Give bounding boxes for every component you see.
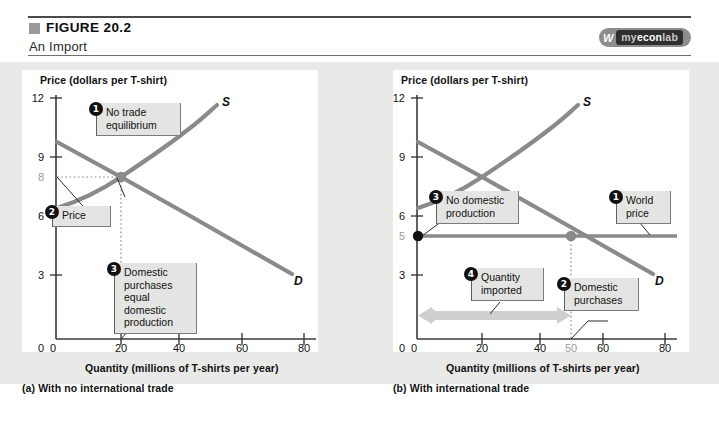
chart-b-bullet-3: 3 [429, 190, 443, 204]
brand-lab: lab [662, 31, 678, 43]
figure-marker-square [29, 23, 40, 34]
chart-a-demand-label: D [294, 274, 303, 288]
chart-b-demand-label: D [655, 274, 664, 288]
chart-a-equilibrium-dot [116, 172, 126, 182]
chart-a-bullet-3: 3 [107, 262, 121, 276]
brand-my: my [621, 31, 637, 43]
myeconlab-badge[interactable]: W myeconlab [599, 28, 691, 47]
chart-b-callout-world-price: World price [616, 191, 671, 224]
chart-a-callout-domestic-purchases: Domestic purchases equal domestic produc… [114, 263, 197, 334]
chart-b-callout-quantity-imported: Quantity imported [471, 268, 544, 301]
figure-title: An Import [29, 39, 87, 54]
chart-b-callout-no-domestic-production: No domestic production [436, 191, 519, 224]
chart-a-bullet-2: 2 [45, 205, 59, 219]
chart-a-callout-price: Price [52, 206, 111, 227]
figure-number: FIGURE 20.2 [46, 20, 131, 35]
chart-a-supply-label: S [222, 95, 230, 109]
chart-b-purchases-dot [566, 231, 576, 241]
chart-b-bullet-2: 2 [557, 277, 571, 291]
chart-b-leader-1 [640, 223, 650, 235]
header-rule-bottom [28, 55, 691, 56]
chart-no-trade: Price (dollars per T-shirt) 12 9 8 6 3 0… [0, 62, 360, 384]
chart-a-callout-no-trade-equilibrium: No trade equilibrium [96, 103, 181, 136]
chart-b-bullet-4: 4 [464, 267, 478, 281]
myeconlab-wordmark: myeconlab [616, 30, 683, 45]
chart-b-supply-label: S [583, 95, 591, 109]
chart-b-callout-domestic-purchases: Domestic purchases [564, 278, 639, 311]
chart-b-no-production-dot [413, 231, 423, 241]
chart-b-imported-arrow [418, 307, 571, 324]
chart-a-equilibrium-guides [57, 177, 121, 339]
myeconlab-w-icon: W [603, 32, 616, 44]
chart-with-trade: Price (dollars per T-shirt) 12 9 6 5 3 0… [360, 62, 719, 384]
brand-econ: econ [637, 31, 662, 43]
figure-page: FIGURE 20.2 An Import W myeconlab Price … [0, 0, 719, 422]
header-rule-top [28, 16, 691, 18]
chart-b-bullet-1: 1 [609, 190, 623, 204]
chart-a-bullet-1: 1 [89, 102, 103, 116]
